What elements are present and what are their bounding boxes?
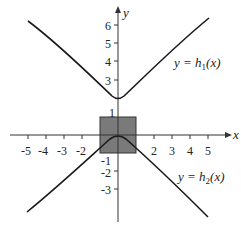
coordinate-plane: x y -5 -4 -3 -2 2 3 4 5 bbox=[0, 0, 241, 227]
graph-figure: x y -5 -4 -3 -2 2 3 4 5 bbox=[0, 0, 241, 227]
x-tick-label: -4 bbox=[38, 144, 48, 158]
y-tick-label: -3 bbox=[101, 183, 111, 197]
x-tick-label: -5 bbox=[21, 144, 31, 158]
curve-h2-label: y = h2(x) bbox=[176, 169, 224, 186]
y-tick-label: 3 bbox=[105, 74, 111, 88]
y-tick-label: 1 bbox=[109, 106, 115, 120]
x-axis-label: x bbox=[232, 127, 239, 142]
y-tick-label: 4 bbox=[105, 55, 111, 69]
y-axis-label: y bbox=[121, 5, 129, 20]
x-tick-label: 4 bbox=[187, 144, 193, 158]
x-tick-label: -3 bbox=[57, 144, 67, 158]
x-tick-label: 5 bbox=[205, 144, 211, 158]
x-axis-arrow-icon bbox=[225, 132, 232, 138]
y-tick-label: -2 bbox=[101, 166, 111, 180]
x-tick-label: 3 bbox=[169, 144, 175, 158]
x-tick-label: 2 bbox=[151, 144, 157, 158]
y-tick-label: 5 bbox=[105, 37, 111, 51]
y-axis-arrow-icon bbox=[115, 6, 121, 13]
curve-h1-label: y = h1(x) bbox=[172, 55, 220, 72]
x-tick-label: -2 bbox=[76, 144, 86, 158]
y-tick-labels: 6 5 4 3 1 -1 -2 -3 bbox=[101, 19, 115, 197]
y-tick-label: 6 bbox=[105, 19, 111, 33]
